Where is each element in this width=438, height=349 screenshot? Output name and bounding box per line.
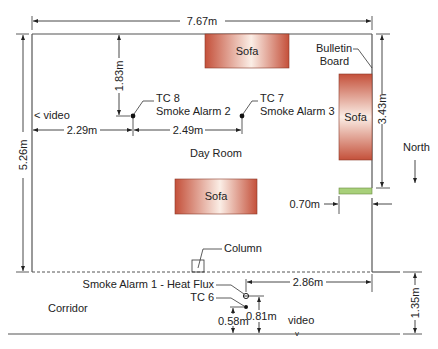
tc7-label: TC 7	[260, 92, 284, 104]
dim-door-width: 0.70m	[289, 196, 392, 214]
tc8-leader	[134, 101, 154, 114]
tc7-sensor	[240, 114, 245, 119]
tc8-label: TC 8	[156, 92, 180, 104]
tc6-leader	[216, 298, 244, 306]
door	[339, 188, 372, 194]
tc8-sensor	[131, 114, 136, 119]
day-room-label: Day Room	[190, 147, 242, 159]
smoke-alarm-3-label: Smoke Alarm 3	[260, 105, 335, 117]
sofa-right-label: Sofa	[344, 111, 368, 123]
sofa-right: Sofa	[339, 74, 372, 160]
svg-text:7.67m: 7.67m	[187, 15, 218, 27]
dim-right-wall-segment: 3.43m	[376, 34, 390, 188]
svg-text:2.86m: 2.86m	[293, 276, 324, 288]
svg-text:5.26m: 5.26m	[17, 140, 29, 171]
dim-tc6-height: 0.58m	[218, 307, 249, 333]
dim-alarm1-to-right: 2.86m	[246, 274, 372, 292]
smoke-alarm-2-label: Smoke Alarm 2	[156, 105, 231, 117]
sofa-top-label: Sofa	[236, 45, 260, 57]
column	[192, 260, 204, 272]
video-camera-south: video	[288, 314, 314, 326]
svg-text:0.58m: 0.58m	[218, 315, 249, 327]
dim-alarm1-height: 0.81m	[246, 296, 277, 333]
svg-text:1.35m: 1.35m	[409, 288, 421, 319]
dim-tc8-from-top: 1.83m	[113, 35, 130, 116]
dim-room-width: 7.67m	[32, 15, 372, 30]
column-leader	[198, 249, 222, 268]
video-camera-south-marker: v	[295, 329, 299, 338]
corridor-label: Corridor	[48, 302, 88, 314]
sofa-top: Sofa	[205, 34, 289, 68]
dim-tc8-to-tc7: 2.49m	[134, 118, 242, 136]
tc6-sensor	[244, 305, 248, 309]
dim-corridor-width: 1.35m	[403, 272, 422, 334]
tc7-leader	[243, 101, 258, 114]
bulletin-board-label-line1: Bulletin	[316, 42, 352, 54]
bulletin-board-label-line2: Board	[320, 55, 349, 67]
sofa-center: Sofa	[175, 179, 257, 214]
svg-text:0.70m: 0.70m	[289, 198, 320, 210]
svg-text:3.43m: 3.43m	[376, 94, 388, 125]
svg-text:0.81m: 0.81m	[246, 310, 277, 322]
dim-room-depth: 5.26m	[16, 34, 29, 272]
smoke-alarm-1-label: Smoke Alarm 1 - Heat Flux	[83, 278, 215, 290]
smoke-alarm-1-leader	[216, 285, 244, 294]
tc6-label: TC 6	[190, 291, 214, 303]
north-label: North	[403, 141, 430, 153]
sofa-center-label: Sofa	[205, 190, 229, 202]
floor-plan: Sofa Sofa Sofa Bulletin Board Column Day…	[0, 0, 438, 349]
column-label: Column	[224, 242, 262, 254]
svg-text:1.83m: 1.83m	[113, 61, 125, 92]
svg-text:2.49m: 2.49m	[173, 124, 204, 136]
svg-text:2.29m: 2.29m	[67, 124, 98, 136]
bulletin-board-leader	[353, 49, 372, 68]
video-camera-west: < video	[34, 109, 70, 121]
